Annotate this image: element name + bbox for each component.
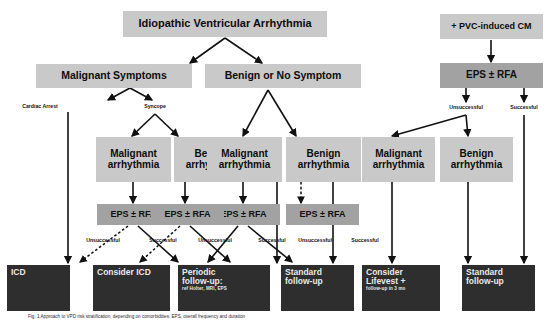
label-text: Unsuccessful [86,237,120,243]
box-label: Benign or No Symptom [225,70,342,81]
label-successful-1: Successful [149,237,176,243]
box-standard-followup-2[interactable]: Standard follow-up [462,265,535,311]
label-text: Successful [149,237,176,243]
box-line2: follow-up [285,277,323,286]
label-unsuccessful-2: Unsuccessful [198,237,232,243]
box-label: EPS ± RFA [221,210,267,220]
box-subtext: ref Holter, MRI, EPS [182,287,227,292]
box-label: EPS ± RFA [466,70,517,81]
edge-unsucc-malignant [392,115,466,136]
box-line2: arrhythmia [451,160,503,171]
label-text: Unsuccessful [298,237,332,243]
edge-ms-cardiac [108,88,130,100]
box-standard-followup-1[interactable]: Standard follow-up [281,265,354,311]
label-text: Unsuccessful [198,237,232,243]
figure-caption: Fig. 1 Approach to VPD risk stratificati… [28,314,528,319]
box-subtext: follow-up in 3 mo [366,287,405,292]
label-unsuccessful-1: Unsuccessful [86,237,120,243]
edge-unsucc-benign [466,115,468,136]
box-line2: arrhythmia [373,160,425,171]
box-line2: follow-up: [182,277,223,286]
label-text: Successful [258,237,285,243]
box-benign-or-no-symptom[interactable]: Benign or No Symptom [205,64,361,88]
label-text: Unsuccessful [449,104,483,110]
edge-eps1-unsuccessful [80,226,128,262]
label-text: Successful [351,237,378,243]
box-periodic-followup[interactable]: Periodic follow-up: ref Holter, MRI, EPS [178,265,270,311]
box-malignant-symptoms[interactable]: Malignant Symptoms [36,64,192,88]
label-successful-right: Successful [510,104,537,110]
edge-ms-syncope [130,88,152,100]
box-line2: arrhythmia [298,160,350,171]
label-successful-3: Successful [351,237,378,243]
edge-benign-benign [268,90,296,136]
box-benign-arrhythmia-3[interactable]: Benign arrhythmia [440,137,513,182]
box-label: EPS ± RFA [165,210,211,220]
box-consider-icd[interactable]: Consider ICD [93,265,170,311]
box-line2: arrhythmia [108,160,160,171]
edge-eps3-successful [248,226,292,262]
edge-benign-malignant [243,90,268,136]
label-successful-2: Successful [258,237,285,243]
box-pvc-induced-cm[interactable]: + PVC-induced CM [440,14,543,39]
box-line2: Lifevest + [366,277,405,286]
box-line1: ICD [11,268,26,277]
edge-title-benign [225,38,262,63]
label-text: Successful [510,104,537,110]
box-line1: Malignant [375,149,422,160]
box-line1: Benign [460,149,494,160]
label-text: Syncope [144,103,166,109]
box-malignant-arrhythmia-1[interactable]: Malignant arrhythmia [96,137,171,182]
edge-title-malignant [190,38,225,63]
box-line1: Benign [307,149,341,160]
box-label: + PVC-induced CM [451,22,531,32]
box-consider-lifevest[interactable]: Consider Lifevest + follow-up in 3 mo [362,265,440,311]
box-label: Malignant Symptoms [61,70,167,81]
box-eps-rfa-4[interactable]: EPS ± RFA [286,204,359,225]
flowchart-canvas: Idiopathic Ventricular Arrhythmia + PVC-… [0,0,553,324]
box-idiopathic-ventricular-arrhythmia[interactable]: Idiopathic Ventricular Arrhythmia [123,11,327,37]
box-line1: Malignant [110,149,157,160]
box-eps-rfa-right[interactable]: EPS ± RFA [440,63,543,88]
edge-eps1-successful [138,226,178,262]
box-eps-rfa-3[interactable]: EPS ± RFA [151,204,224,225]
edge-syncope-benign [155,114,178,136]
box-icd[interactable]: ICD [7,265,70,311]
label-unsuccessful-3: Unsuccessful [298,237,332,243]
box-line1: Consider ICD [97,268,151,277]
box-label: Idiopathic Ventricular Arrhythmia [138,18,311,30]
box-label: EPS ± RFA [300,210,346,220]
box-label: EPS ± RFA [111,210,157,220]
box-benign-arrhythmia-2[interactable]: Benign arrhythmia [286,137,361,182]
box-line2: arrhythmia [219,160,271,171]
edge-eps2-unsuccessful [140,226,180,262]
label-cardiac-arrest: Cardiac Arrest [22,103,58,109]
box-malignant-arrhythmia-3[interactable]: Malignant arrhythmia [362,137,435,182]
label-syncope: Syncope [144,103,166,109]
edge-syncope-malignant [132,114,155,136]
label-text: Cardiac Arrest [22,103,58,109]
box-line2: follow-up [466,277,504,286]
box-malignant-arrhythmia-2[interactable]: Malignant arrhythmia [207,137,282,182]
label-unsuccessful-right: Unsuccessful [449,104,483,110]
box-line1: Malignant [221,149,268,160]
